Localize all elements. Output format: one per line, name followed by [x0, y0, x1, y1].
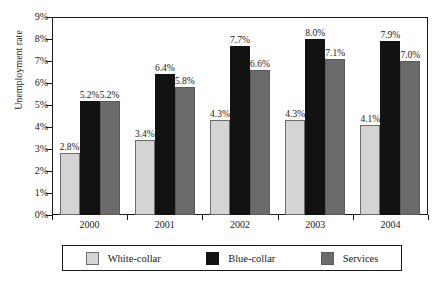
y-axis-tick-label: 2% [0, 165, 48, 177]
bar-group: 4.3%7.7%6.6% [202, 17, 277, 215]
bar-white-collar-2003[interactable] [285, 120, 305, 215]
bar-white-collar-2004[interactable] [360, 125, 380, 215]
y-axis-title: Unemployment rate [11, 5, 27, 135]
y-axis-tick-label: 6% [0, 77, 48, 89]
y-axis-tick-label: 9% [0, 11, 48, 23]
bar-value-label: 7.7% [223, 35, 257, 45]
bar-group: 2.8%5.2%5.2% [52, 17, 127, 215]
x-axis-label-2003: 2003 [285, 219, 345, 230]
bar-white-collar-2002[interactable] [210, 120, 230, 215]
y-axis-tick-label: 5% [0, 99, 48, 111]
chart-legend: White-collarBlue-collarServices [62, 245, 402, 271]
legend-label: Services [343, 253, 379, 264]
x-axis-label-2004: 2004 [360, 219, 420, 230]
x-axis-tick-mark [52, 215, 53, 220]
bar-services-2001[interactable] [175, 87, 195, 215]
legend-swatch-icon [321, 252, 334, 265]
legend-item-services[interactable]: Services [321, 252, 379, 265]
y-axis-tick-label: 0% [0, 209, 48, 221]
x-axis-tick-mark [127, 215, 128, 220]
x-axis-label-2001: 2001 [135, 219, 195, 230]
bar-services-2002[interactable] [250, 70, 270, 215]
bar-blue-collar-2000[interactable] [80, 101, 100, 215]
bar-value-label: 7.0% [393, 50, 427, 60]
bar-group: 3.4%6.4%5.8% [127, 17, 202, 215]
bar-blue-collar-2003[interactable] [305, 39, 325, 215]
x-axis-label-2000: 2000 [60, 219, 120, 230]
legend-label: Blue-collar [228, 253, 275, 264]
x-axis-tick-mark [202, 215, 203, 220]
x-axis-label-2002: 2002 [210, 219, 270, 230]
legend-label: White-collar [108, 253, 161, 264]
bars-layer: 2.8%5.2%5.2%3.4%6.4%5.8%4.3%7.7%6.6%4.3%… [52, 17, 428, 215]
bar-value-label: 8.0% [298, 28, 332, 38]
legend-swatch-icon [206, 252, 219, 265]
bar-white-collar-2001[interactable] [135, 140, 155, 215]
legend-item-white-collar[interactable]: White-collar [86, 252, 161, 265]
y-axis-tick-label: 4% [0, 121, 48, 133]
bar-services-2003[interactable] [325, 59, 345, 215]
bar-value-label: 5.8% [168, 76, 202, 86]
y-axis-tick-label: 7% [0, 55, 48, 67]
bar-blue-collar-2002[interactable] [230, 46, 250, 215]
bar-blue-collar-2001[interactable] [155, 74, 175, 215]
bar-value-label: 6.4% [148, 63, 182, 73]
y-axis-tick-label: 1% [0, 187, 48, 199]
bar-value-label: 7.9% [373, 30, 407, 40]
bar-blue-collar-2004[interactable] [380, 41, 400, 215]
legend-swatch-icon [86, 252, 99, 265]
bar-value-label: 6.6% [243, 59, 277, 69]
x-axis-tick-mark [278, 215, 279, 220]
bar-services-2004[interactable] [400, 61, 420, 215]
legend-item-blue-collar[interactable]: Blue-collar [206, 252, 275, 265]
bar-value-label: 5.2% [93, 90, 127, 100]
bar-group: 4.3%8.0%7.1% [278, 17, 353, 215]
bar-white-collar-2000[interactable] [60, 153, 80, 215]
y-axis-tick-label: 8% [0, 33, 48, 45]
bar-services-2000[interactable] [100, 101, 120, 215]
x-axis-tick-mark [353, 215, 354, 220]
bar-group: 4.1%7.9%7.0% [353, 17, 428, 215]
x-axis-tick-mark [428, 215, 429, 220]
bar-value-label: 7.1% [318, 48, 352, 58]
y-axis-tick-label: 3% [0, 143, 48, 155]
